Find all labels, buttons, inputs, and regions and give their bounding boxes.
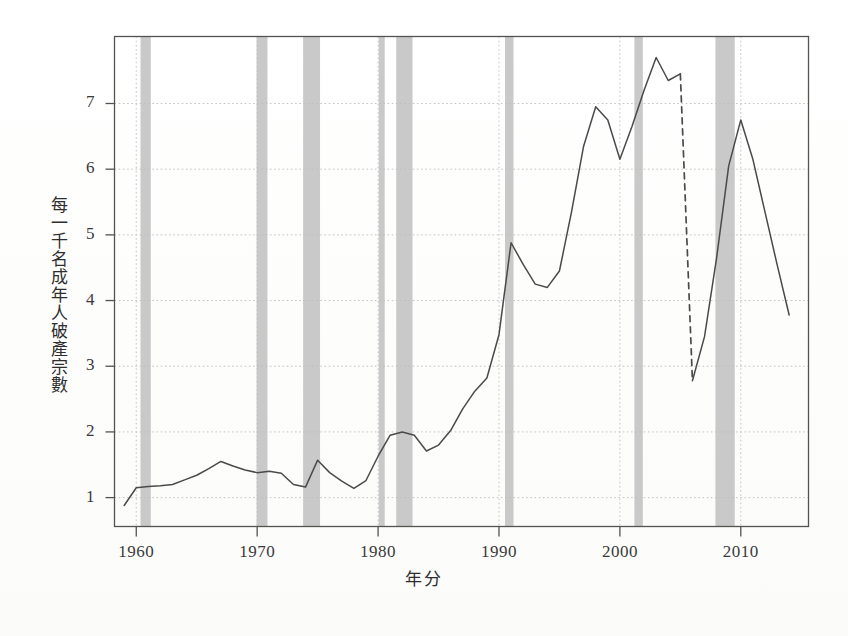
recession-bands-group xyxy=(140,37,734,527)
y-tick-label: 1 xyxy=(73,487,95,507)
bankruptcy-filings-chart-figure: 每一千名成年人破產宗數 年分 1234567 19601970198019902… xyxy=(0,0,848,636)
gridlines-group xyxy=(115,37,809,527)
recession-band xyxy=(140,37,150,527)
y-tick-label: 7 xyxy=(73,92,95,112)
x-tick-label: 1970 xyxy=(227,542,287,562)
x-tick-label: 2010 xyxy=(711,542,771,562)
x-tick-label: 1980 xyxy=(348,542,408,562)
recession-band xyxy=(396,37,412,527)
recession-band xyxy=(715,37,734,527)
axis-ticks-group xyxy=(106,103,741,536)
series-line-dashed xyxy=(680,74,692,381)
x-tick-label: 2000 xyxy=(590,542,650,562)
y-tick-label: 4 xyxy=(73,290,95,310)
plot-border xyxy=(115,37,809,527)
axis-frame xyxy=(115,37,809,527)
x-tick-label: 1990 xyxy=(469,542,529,562)
recession-band xyxy=(257,37,268,527)
data-series-group xyxy=(124,58,789,506)
y-tick-label: 3 xyxy=(73,355,95,375)
y-tick-label: 5 xyxy=(73,224,95,244)
recession-band xyxy=(303,37,320,527)
recession-band xyxy=(634,37,642,527)
y-tick-label: 2 xyxy=(73,421,95,441)
x-tick-label: 1960 xyxy=(106,542,166,562)
y-tick-label: 6 xyxy=(73,158,95,178)
